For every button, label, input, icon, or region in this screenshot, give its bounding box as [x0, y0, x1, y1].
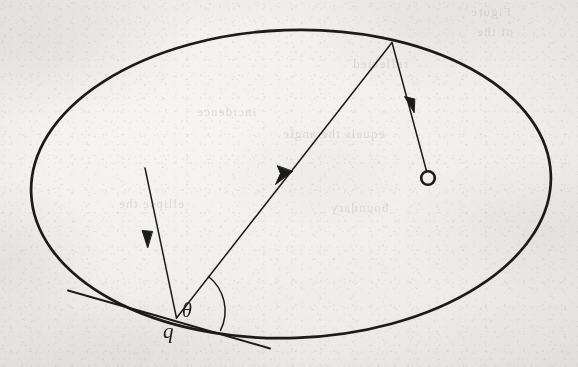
diagram-canvas: q θ [0, 0, 578, 367]
focus-point-marker [421, 171, 435, 185]
label-angle-theta: θ [182, 299, 192, 321]
incoming-ray [145, 168, 177, 318]
label-point-q: q [163, 319, 174, 343]
incoming-ray-arrowhead [142, 231, 152, 248]
angle-arc-theta [209, 277, 226, 331]
scanned-figure: Figure of the reflected incidence equals… [0, 0, 578, 367]
ellipse-boundary [26, 21, 556, 347]
outgoing-ray [392, 43, 427, 172]
